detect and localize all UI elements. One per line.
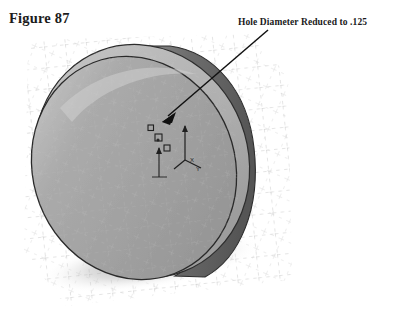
cad-model-graphic: X Y [0,30,310,317]
triad-y-label: Y [196,166,200,172]
annotation-label: Hole Diameter Reduced to .125 [238,17,367,27]
triad-x-label: X [190,157,194,163]
figure-page: Figure 87 Hole Diameter Reduced to .125 [0,0,399,317]
model-viewport: X Y [0,30,310,317]
figure-title: Figure 87 [9,10,70,27]
